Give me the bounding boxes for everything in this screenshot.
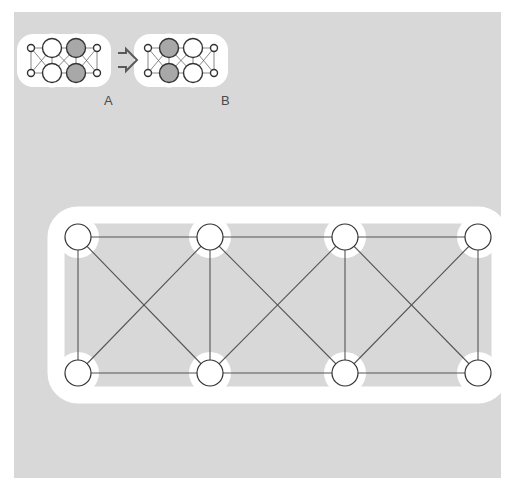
graph-node — [43, 39, 62, 58]
caption-label-a: A — [104, 93, 113, 108]
graph-node — [332, 224, 358, 250]
graph-node — [211, 45, 218, 52]
graph-node — [94, 70, 101, 77]
graph-node — [28, 45, 35, 52]
node-halo-layer — [17, 34, 500, 396]
graph-node — [145, 70, 152, 77]
graph-node — [184, 64, 203, 83]
graph-node — [160, 39, 179, 58]
graph-node — [65, 224, 91, 250]
graph-node — [332, 360, 358, 386]
graph-node — [197, 360, 223, 386]
graph-node — [65, 360, 91, 386]
graph-node — [160, 64, 179, 83]
graph-node — [211, 70, 218, 77]
graph-node — [28, 70, 35, 77]
figure-canvas: A B — [0, 0, 517, 491]
graph-node — [94, 45, 101, 52]
caption-label-b: B — [221, 93, 230, 108]
graph-figure — [0, 0, 517, 491]
graph-node — [43, 64, 62, 83]
graph-node — [145, 45, 152, 52]
graph-node — [67, 64, 86, 83]
graph-node — [465, 224, 491, 250]
graph-node — [465, 360, 491, 386]
graph-node — [197, 224, 223, 250]
graph-node — [67, 39, 86, 58]
graph-node — [184, 39, 203, 58]
